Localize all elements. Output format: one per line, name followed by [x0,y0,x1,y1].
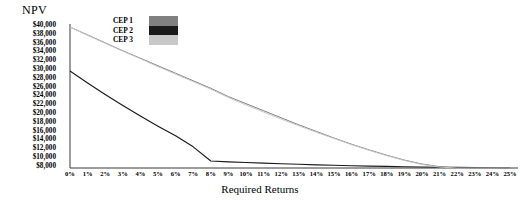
x-tick-label: 16% [345,170,358,177]
x-tick-label: 15% [327,170,340,177]
x-tick-label: 13% [292,170,305,177]
x-tick-label: 24% [486,170,499,177]
legend-item: CEP 1 [113,16,183,26]
x-tick-label: 4% [135,170,145,177]
x-tick-label: 2% [100,170,110,177]
x-axis-title: Required Returns [0,183,520,195]
npv-sensitivity-chart: NPV $40,000$38,000$36,000$34,000$32,000$… [0,0,520,202]
x-tick-label: 6% [171,170,181,177]
axis-lines [70,24,518,168]
x-tick-label: 17% [363,170,376,177]
series-line-cep-2 [70,71,510,168]
x-tick-label: 5% [153,170,163,177]
legend-color-swatch [149,16,178,26]
x-tick-label: 0% [65,170,75,177]
x-tick-label: 25% [503,170,516,177]
legend-item-label: CEP 2 [113,26,149,35]
x-tick-label: 8% [206,170,216,177]
x-tick-label: 21% [433,170,446,177]
series-lines [70,27,510,168]
x-tick-label: 14% [310,170,323,177]
x-tick-label: 9% [223,170,233,177]
x-tick-label: 10% [239,170,252,177]
x-tick-label: 1% [83,170,93,177]
x-tick-label: 20% [415,170,428,177]
legend-color-swatch [149,26,178,36]
x-axis-tick-labels: 0%1%2%3%4%5%6%7%8%9%10%11%12%13%14%15%16… [0,170,520,182]
legend-color-swatch [149,35,178,45]
x-tick-label: 18% [380,170,393,177]
legend-item-label: CEP 3 [113,35,149,44]
series-line-cep-1 [70,27,510,168]
x-tick-label: 12% [275,170,288,177]
legend-item: CEP 3 [113,35,183,45]
x-tick-label: 3% [118,170,128,177]
x-tick-label: 23% [468,170,481,177]
legend-item-label: CEP 1 [113,16,149,25]
x-tick-label: 7% [188,170,198,177]
x-tick-label: 22% [451,170,464,177]
x-tick-label: 19% [398,170,411,177]
x-tick-label: 11% [257,170,270,177]
legend-item: CEP 2 [113,26,183,36]
series-line-cep-3 [70,27,510,168]
chart-legend: CEP 1CEP 2CEP 3 [113,16,183,45]
